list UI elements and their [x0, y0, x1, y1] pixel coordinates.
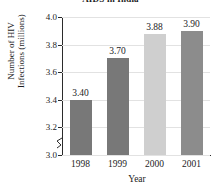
x-axis-tick-label: 2001 [182, 159, 201, 169]
x-axis-tick-label: 2000 [145, 159, 164, 169]
y-axis-title: Number of HIV Infections (millions) [1, 0, 31, 110]
y-axis-title-line-1: Number of HIV [6, 22, 17, 80]
y-axis-tick-mark [58, 17, 62, 18]
y-axis-tick-label: 3.6 [46, 67, 57, 77]
bar: 3.70 [107, 58, 129, 155]
x-axis-tick-label: 1998 [71, 159, 90, 169]
y-axis-tick-label: 4.0 [46, 12, 57, 22]
y-axis-tick-label: 3.2 [46, 122, 57, 132]
bar-value-label: 3.88 [146, 22, 163, 32]
bar: 3.40 [70, 100, 92, 155]
y-axis-title-line-2: Infections (millions) [16, 14, 27, 88]
y-axis-tick-mark [58, 127, 62, 128]
x-axis-tick-label: 1999 [108, 159, 127, 169]
bar-value-label: 3.70 [109, 46, 126, 56]
y-axis-tick-mark [58, 45, 62, 46]
y-axis-tick-label: 3.8 [46, 40, 57, 50]
plot-area: 3.03.23.43.63.84.03.403.703.883.90 [62, 17, 210, 155]
y-axis-tick-mark [58, 155, 62, 156]
bar-value-label: 3.90 [183, 19, 200, 29]
chart-title: AIDS in India [0, 0, 221, 4]
y-axis-tick-mark [58, 72, 62, 73]
bar: 3.88 [144, 34, 166, 155]
bar-value-label: 3.40 [72, 88, 89, 98]
gridline [62, 155, 210, 156]
bar: 3.90 [181, 31, 203, 155]
y-axis-tick-mark [58, 100, 62, 101]
y-axis-tick-label: 3.0 [46, 150, 57, 160]
x-axis-title: Year [62, 174, 212, 184]
y-axis-tick-label: 3.4 [46, 95, 57, 105]
